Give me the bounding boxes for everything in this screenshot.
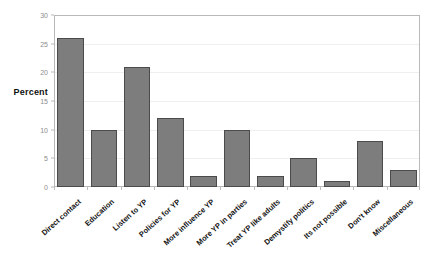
x-axis-ticks (54, 187, 420, 191)
x-tick-mark (419, 187, 420, 190)
bar[interactable] (224, 130, 251, 187)
x-axis-label: Policies for YP (0, 197, 182, 272)
bar-chart: Percent 051015202530 Direct contactEduca… (0, 0, 434, 272)
y-tick-label: 20 (40, 69, 48, 76)
y-tick-label: 10 (40, 126, 48, 133)
bar[interactable] (190, 176, 217, 187)
bar-slot (124, 15, 151, 187)
y-tick-label: 25 (40, 40, 48, 47)
x-tick-mark (121, 187, 122, 190)
y-tick-label: 5 (44, 155, 48, 162)
bar-slot (91, 15, 118, 187)
bar-slot (190, 15, 217, 187)
bar[interactable] (124, 67, 151, 187)
x-tick-mark (287, 187, 288, 190)
bar[interactable] (257, 176, 284, 187)
y-tick-label: 0 (44, 184, 48, 191)
x-tick-mark (187, 187, 188, 190)
x-tick-mark (254, 187, 255, 190)
x-tick-mark (220, 187, 221, 190)
y-tick-label: 15 (40, 98, 48, 105)
bar[interactable] (157, 118, 184, 187)
bar-slot (224, 15, 251, 187)
bar-slot (324, 15, 351, 187)
x-tick-mark (54, 187, 55, 190)
bar[interactable] (357, 141, 384, 187)
bar[interactable] (390, 170, 417, 187)
bar-slot (257, 15, 284, 187)
x-tick-mark (154, 187, 155, 190)
x-tick-mark (353, 187, 354, 190)
bar[interactable] (91, 130, 118, 187)
bar-slot (390, 15, 417, 187)
bar-slot (157, 15, 184, 187)
bar-slot (57, 15, 84, 187)
bar-slot (357, 15, 384, 187)
bars-layer (54, 15, 420, 187)
x-tick-mark (320, 187, 321, 190)
y-tick-label: 30 (40, 12, 48, 19)
bar[interactable] (57, 38, 84, 187)
y-axis-ticks: 051015202530 (0, 15, 54, 187)
x-tick-mark (387, 187, 388, 190)
bar[interactable] (290, 158, 317, 187)
x-tick-mark (87, 187, 88, 190)
bar-slot (290, 15, 317, 187)
